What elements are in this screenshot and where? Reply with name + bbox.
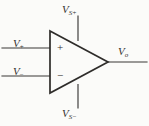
positive-supply-label-sub: S+ [69,9,77,17]
output-label-base: V [118,45,125,57]
noninverting-input-label-sub: + [20,43,24,51]
inverting-terminal-sign: − [57,70,63,81]
noninverting-input-label: V+ [13,38,23,51]
output-label: Vo [118,46,128,59]
op-amp-figure: V+ V− VS+ VS− Vo + − [0,0,149,126]
output-label-sub: o [125,51,128,59]
inverting-input-label-base: V [13,65,20,77]
inverting-input-label: V− [13,66,23,79]
noninverting-input-label-base: V [13,37,20,49]
noninverting-terminal-sign: + [57,42,63,53]
negative-supply-label-sub: S− [69,113,77,121]
negative-supply-label-base: V [62,107,69,119]
inverting-input-label-sub: − [20,71,24,79]
positive-supply-label-base: V [62,3,69,15]
negative-supply-label: VS− [62,108,77,121]
positive-supply-label: VS+ [62,4,77,17]
